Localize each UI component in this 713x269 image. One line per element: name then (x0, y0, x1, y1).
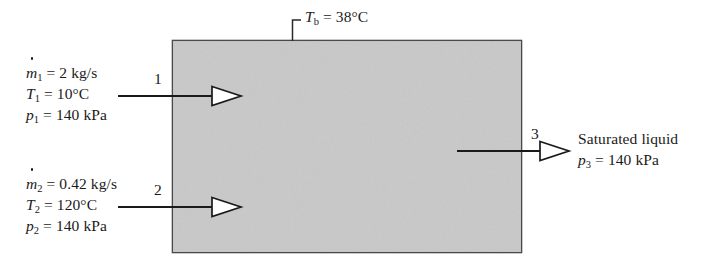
thermodynamics-control-volume-diagram: Tb = 38°C m1 = 2 kg/s T1 = 10°C p1 = 140… (0, 0, 713, 269)
inlet-1-pressure-line: p1 = 140 kPa (26, 104, 107, 125)
boundary-temperature-leader (293, 20, 302, 41)
inlet-1-stream-number: 1 (154, 70, 162, 88)
boundary-temperature-label: Tb = 38°C (305, 6, 368, 32)
inlet-2-massflow-line: m2 = 0.42 kg/s (26, 173, 117, 194)
outlet-3-properties: Saturated liquid p3 = 140 kPa (578, 128, 678, 170)
inlet-2-temperature-line: T2 = 120°C (26, 194, 117, 215)
inlet-1-massflow-equals: = (43, 64, 60, 81)
inlet-1-temperature-symbol: T (26, 85, 35, 102)
outlet-3-pressure-value: 140 kPa (608, 151, 659, 168)
inlet-2-temperature-equals: = (40, 196, 57, 213)
control-volume-texture (173, 41, 521, 252)
outlet-3-pressure-line: p3 = 140 kPa (578, 149, 678, 170)
outlet-3-pressure-equals: = (591, 151, 608, 168)
inlet-2-pressure-value: 140 kPa (56, 217, 107, 234)
inlet-2-properties: m2 = 0.42 kg/s T2 = 120°C p2 = 140 kPa (26, 173, 117, 236)
inlet-1-massflow-value: 2 kg/s (59, 64, 97, 81)
inlet-2-pressure-symbol: p (26, 217, 34, 234)
inlet-2-temperature-value: 120°C (57, 196, 97, 213)
outlet-3-description-line: Saturated liquid (578, 128, 678, 149)
inlet-2-massflow-symbol: m (26, 173, 37, 194)
inlet-2-pressure-equals: = (39, 217, 56, 234)
inlet-1-properties: m1 = 2 kg/s T1 = 10°C p1 = 140 kPa (26, 62, 107, 125)
inlet-2-temperature-symbol: T (26, 196, 35, 213)
boundary-temp-value: 38°C (336, 8, 368, 25)
inlet-1-pressure-equals: = (39, 106, 56, 123)
outlet-3-pressure-symbol: p (578, 151, 586, 168)
inlet-2-stream-number: 2 (154, 181, 162, 199)
inlet-1-temperature-value: 10°C (57, 85, 89, 102)
inlet-1-massflow-symbol: m (26, 62, 37, 83)
inlet-2-massflow-equals: = (43, 175, 60, 192)
inlet-1-pressure-symbol: p (26, 106, 34, 123)
inlet-1-temperature-equals: = (40, 85, 57, 102)
inlet-2-pressure-line: p2 = 140 kPa (26, 215, 117, 236)
outlet-3-arrowhead (540, 142, 569, 161)
outlet-3-description: Saturated liquid (578, 130, 678, 147)
inlet-1-pressure-value: 140 kPa (56, 106, 107, 123)
inlet-1-temperature-line: T1 = 10°C (26, 83, 107, 104)
inlet-2-massflow-value: 0.42 kg/s (59, 175, 117, 192)
inlet-1-massflow-line: m1 = 2 kg/s (26, 62, 107, 83)
outlet-3-stream-number: 3 (531, 125, 539, 143)
boundary-temp-equals: = (319, 8, 336, 25)
boundary-temp-symbol: T (305, 8, 314, 25)
